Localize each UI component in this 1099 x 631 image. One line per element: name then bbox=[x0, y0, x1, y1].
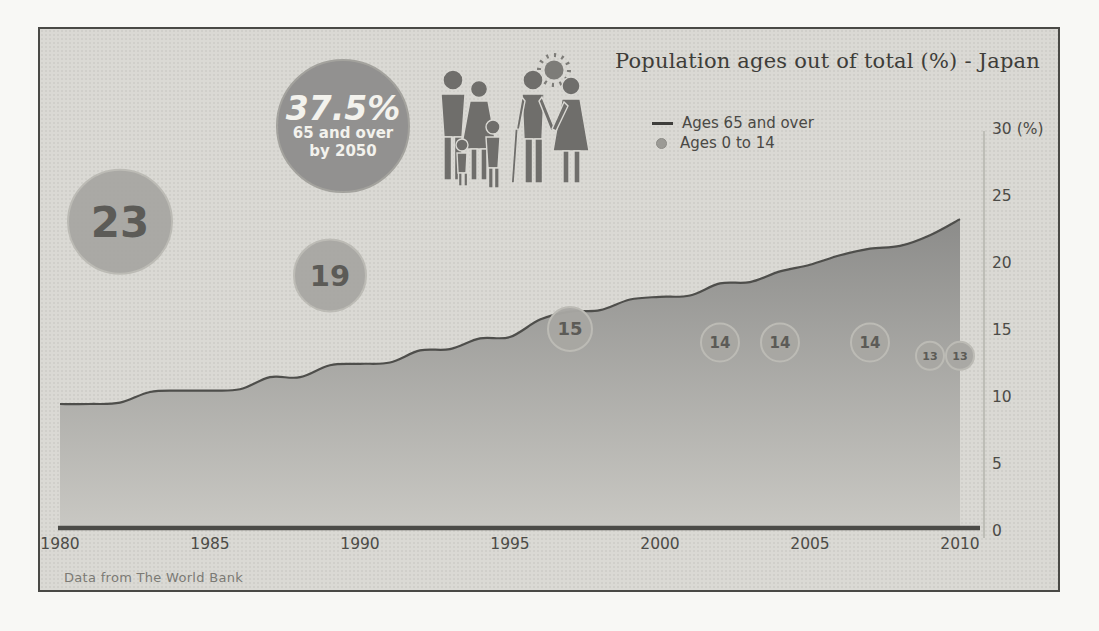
ages-0-14-bubble: 15 bbox=[548, 307, 592, 351]
svg-text:14: 14 bbox=[770, 334, 791, 352]
x-tick-label: 1995 bbox=[490, 535, 529, 553]
legend-dot-swatch bbox=[656, 138, 667, 149]
x-tick-label: 2005 bbox=[790, 535, 829, 553]
legend: Ages 65 and over Ages 0 to 14 bbox=[652, 113, 814, 153]
chart-title: Population ages out of total (%) - Japan bbox=[615, 49, 1040, 73]
projection-caption-line2: by 2050 bbox=[309, 143, 377, 160]
legend-item-ages-65-and-over: Ages 65 and over bbox=[652, 113, 814, 133]
ages-0-14-bubble: 14 bbox=[851, 323, 889, 361]
legend-label: Ages 65 and over bbox=[682, 114, 814, 132]
y-tick-label: 25 bbox=[992, 187, 1012, 205]
svg-text:19: 19 bbox=[310, 259, 350, 293]
ages-0-14-bubble: 23 bbox=[68, 170, 172, 274]
ages-65-area bbox=[60, 219, 960, 528]
y-tick-label: 5 bbox=[992, 455, 1002, 473]
x-tick-label: 1985 bbox=[190, 535, 229, 553]
family-icon bbox=[441, 70, 500, 188]
y-tick-label: 10 bbox=[992, 388, 1012, 406]
ages-0-14-bubble: 13 bbox=[916, 342, 944, 370]
svg-text:23: 23 bbox=[91, 198, 149, 247]
child-figure bbox=[486, 120, 500, 188]
cane bbox=[511, 129, 518, 183]
y-tick-label: 15 bbox=[992, 321, 1012, 339]
projection-caption-line1: 65 and over bbox=[293, 125, 394, 142]
svg-text:14: 14 bbox=[860, 334, 881, 352]
svg-text:13: 13 bbox=[952, 350, 967, 363]
data-source-note: Data from The World Bank bbox=[64, 570, 243, 585]
elderly-man-figure bbox=[511, 70, 555, 183]
y-tick-label: 0 bbox=[992, 522, 1002, 540]
y-tick-label: 30 (%) bbox=[992, 120, 1043, 138]
svg-text:15: 15 bbox=[557, 318, 582, 339]
ages-0-14-bubble: 14 bbox=[761, 323, 799, 361]
legend-item-ages-0-to-14: Ages 0 to 14 bbox=[652, 133, 814, 153]
svg-text:13: 13 bbox=[922, 350, 937, 363]
projection-badge: 37.5% 65 and over by 2050 bbox=[276, 59, 410, 193]
elderly-couple-icon bbox=[511, 70, 589, 183]
legend-label: Ages 0 to 14 bbox=[680, 134, 775, 152]
projection-value: 37.5% bbox=[286, 92, 401, 125]
x-tick-label: 2000 bbox=[640, 535, 679, 553]
x-tick-label: 2010 bbox=[940, 535, 979, 553]
elderly-woman-figure bbox=[552, 77, 589, 183]
svg-text:14: 14 bbox=[710, 334, 731, 352]
family-pictogram bbox=[428, 49, 618, 201]
ages-0-14-bubble: 14 bbox=[701, 323, 739, 361]
y-tick-label: 20 bbox=[992, 254, 1012, 272]
page: { "title": "Population ages out of total… bbox=[0, 0, 1099, 631]
ages-0-14-bubble: 13 bbox=[946, 342, 974, 370]
chart-panel: 051015202530 (%)198019851990199520002005… bbox=[38, 27, 1060, 592]
legend-line-swatch bbox=[652, 122, 673, 125]
x-tick-label: 1980 bbox=[40, 535, 79, 553]
x-tick-label: 1990 bbox=[340, 535, 379, 553]
ages-0-14-bubble: 19 bbox=[294, 239, 366, 311]
